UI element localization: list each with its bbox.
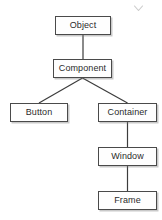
node-object[interactable]: Object xyxy=(55,16,111,35)
edge-component-button xyxy=(39,78,83,103)
node-button[interactable]: Button xyxy=(10,103,68,122)
chevron-down-icon xyxy=(133,3,144,14)
node-frame[interactable]: Frame xyxy=(98,191,157,210)
node-window-label: Window xyxy=(111,152,144,161)
class-hierarchy-diagram: Object Component Button Container Window… xyxy=(0,0,162,220)
edge-component-container xyxy=(83,78,128,103)
node-container[interactable]: Container xyxy=(98,103,157,122)
node-component-label: Component xyxy=(59,64,106,73)
node-object-label: Object xyxy=(70,21,97,30)
node-container-label: Container xyxy=(108,108,148,117)
node-frame-label: Frame xyxy=(114,196,141,205)
node-button-label: Button xyxy=(26,108,53,117)
node-component[interactable]: Component xyxy=(53,59,112,78)
node-window[interactable]: Window xyxy=(98,147,157,166)
